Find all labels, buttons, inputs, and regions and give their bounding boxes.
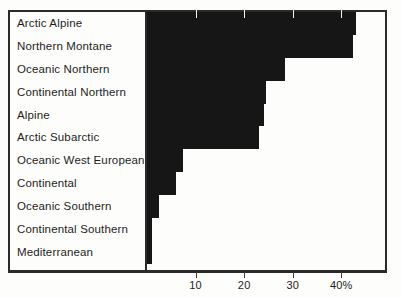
category-label-column: Arctic AlpineNorthern MontaneOceanic Nor…: [10, 12, 144, 270]
bar-row: [147, 172, 385, 195]
category-label: Northern Montane: [10, 35, 144, 58]
bar-row: [147, 218, 385, 241]
bar: [147, 104, 264, 127]
x-tick-label: 40%: [330, 279, 353, 291]
category-label: Continental Southern: [10, 218, 144, 241]
category-label: Alpine: [10, 104, 144, 127]
x-tick-mark: [293, 272, 294, 278]
bar-series: [147, 12, 385, 270]
x-tick-mark: [341, 272, 342, 278]
category-label: Oceanic Northern: [10, 58, 144, 81]
bar-row: [147, 12, 385, 35]
x-tick-label: 30: [286, 279, 299, 291]
bar: [147, 218, 152, 241]
category-label: Arctic Subarctic: [10, 126, 144, 149]
x-tick-label: 10: [189, 279, 202, 291]
bar-row: [147, 241, 385, 264]
bar: [147, 241, 152, 264]
bar: [147, 126, 259, 149]
category-label: Arctic Alpine: [10, 12, 144, 35]
bar: [147, 172, 176, 195]
category-label: Mediterranean: [10, 241, 144, 264]
bar-row: [147, 126, 385, 149]
category-label: Continental Northern: [10, 81, 144, 104]
bar: [147, 12, 356, 35]
bar-row: [147, 104, 385, 127]
x-tick-mark: [196, 272, 197, 278]
bar-row: [147, 81, 385, 104]
bar: [147, 35, 353, 58]
x-axis-ticks: 10203040%: [147, 272, 385, 296]
category-label: Continental: [10, 172, 144, 195]
bar: [147, 149, 183, 172]
x-tick-mark: [244, 272, 245, 278]
bar-row: [147, 195, 385, 218]
x-tick-label: 20: [238, 279, 251, 291]
bar-chart: Arctic AlpineNorthern MontaneOceanic Nor…: [0, 0, 402, 298]
bar: [147, 58, 285, 81]
bar: [147, 195, 159, 218]
plot-area: [147, 12, 385, 270]
bar-row: [147, 149, 385, 172]
bar-row: [147, 35, 385, 58]
category-label: Oceanic West European: [10, 149, 144, 172]
category-label: Oceanic Southern: [10, 195, 144, 218]
bar: [147, 81, 266, 104]
bar-row: [147, 58, 385, 81]
